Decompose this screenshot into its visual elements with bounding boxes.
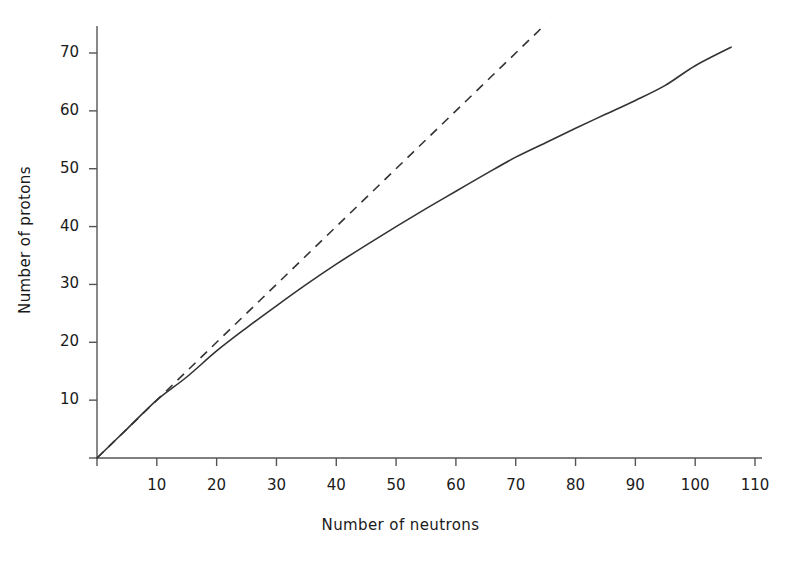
x-tick-label: 90 — [615, 476, 655, 494]
equal-numbers-dashed-line — [97, 24, 546, 458]
x-tick-label: 10 — [137, 476, 177, 494]
y-tick-label: 40 — [39, 217, 79, 235]
x-tick-label: 20 — [197, 476, 237, 494]
x-tick-label: 110 — [735, 476, 775, 494]
y-tick-label: 50 — [39, 159, 79, 177]
x-tick-label: 100 — [675, 476, 715, 494]
y-axis-label-container: Number of protons — [16, 140, 36, 340]
y-tick-label: 70 — [39, 43, 79, 61]
y-axis-label: Number of protons — [16, 140, 34, 340]
y-tick-label: 10 — [39, 390, 79, 408]
x-axis-ticks — [97, 458, 755, 466]
y-tick-label: 20 — [39, 332, 79, 350]
y-tick-label: 30 — [39, 274, 79, 292]
y-tick-label: 60 — [39, 101, 79, 119]
x-tick-label: 50 — [376, 476, 416, 494]
y-axis-ticks — [89, 53, 97, 458]
x-tick-label: 60 — [436, 476, 476, 494]
x-tick-label: 40 — [316, 476, 356, 494]
x-axis-label: Number of neutrons — [0, 516, 801, 534]
x-tick-label: 30 — [256, 476, 296, 494]
x-tick-label: 70 — [496, 476, 536, 494]
chart-figure: 10203040506070102030405060708090100110 N… — [0, 0, 801, 562]
stability-curve-line — [97, 47, 731, 458]
x-tick-label: 80 — [556, 476, 596, 494]
